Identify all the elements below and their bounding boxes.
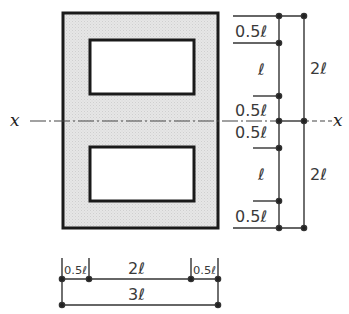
- dim-h-left-wall: 0.5ℓ: [64, 264, 87, 277]
- dim-v-upper-web: 0.5ℓ: [235, 101, 267, 120]
- dim-v-top-flange: 0.5ℓ: [235, 22, 267, 41]
- dim-h-right-wall: 0.5ℓ: [193, 264, 216, 277]
- dim-h-opening-width: 2ℓ: [128, 259, 145, 278]
- dim-v-lower-web: 0.5ℓ: [235, 123, 267, 142]
- dim-v-upper-half: 2ℓ: [310, 59, 327, 78]
- cross-section-diagram: x x 0.5ℓ ℓ 0.5ℓ 0.5ℓ ℓ 0.5ℓ 2ℓ 2ℓ: [0, 0, 349, 314]
- vertical-dimension-chain: [233, 13, 307, 230]
- dim-v-bottom-flange: 0.5ℓ: [235, 207, 267, 226]
- dim-v-lower-half: 2ℓ: [310, 165, 327, 184]
- dim-h-overall-width: 3ℓ: [128, 285, 145, 304]
- upper-opening: [90, 40, 194, 94]
- lower-opening: [90, 147, 194, 201]
- dim-v-lower-opening: ℓ: [257, 165, 265, 184]
- dim-v-upper-opening: ℓ: [257, 60, 265, 79]
- x-axis-label-right: x: [333, 110, 343, 130]
- x-axis-label-left: x: [10, 110, 20, 130]
